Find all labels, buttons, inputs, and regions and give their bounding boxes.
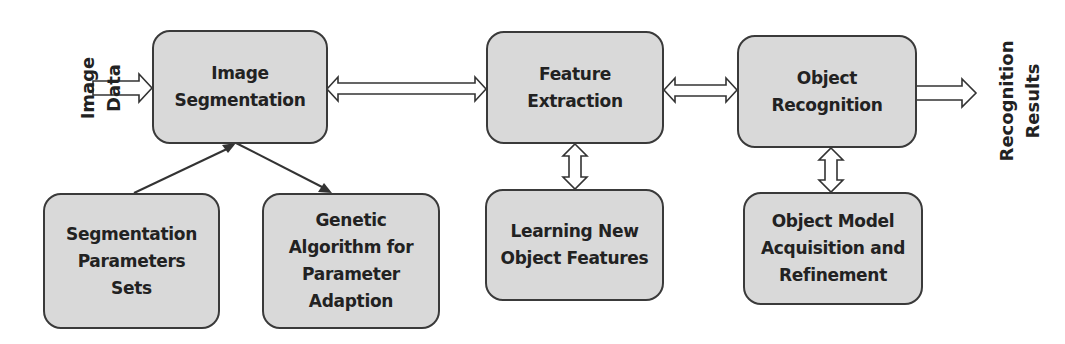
- node-label: Image Segmentation: [174, 60, 305, 114]
- node-label: Genetic Algorithm for Parameter Adaption: [289, 207, 413, 315]
- node-feature-extraction: Feature Extraction: [486, 31, 664, 144]
- node-label: Object Recognition: [772, 65, 883, 119]
- node-learning-new-object-features: Learning New Object Features: [485, 189, 664, 301]
- double-arrow-obj-model: [819, 148, 843, 192]
- node-image-segmentation: Image Segmentation: [152, 30, 328, 144]
- arrowhead-params-seg: [222, 143, 236, 153]
- node-label: Object Model Acquisition and Refinement: [761, 208, 905, 289]
- output-label-recognition-results: Recognition Results: [994, 36, 1046, 166]
- double-arrow-seg-feat: [327, 77, 486, 101]
- output-arrow: [916, 79, 976, 107]
- line-arrow-params-seg: [134, 148, 229, 193]
- node-object-model-acquisition: Object Model Acquisition and Refinement: [743, 192, 923, 305]
- node-genetic-algorithm: Genetic Algorithm for Parameter Adaption: [262, 193, 440, 329]
- input-label-image-data: Image Data: [75, 33, 101, 143]
- node-label: Feature Extraction: [527, 61, 622, 115]
- node-object-recognition: Object Recognition: [737, 35, 917, 148]
- node-label: Segmentation Parameters Sets: [66, 221, 197, 302]
- double-arrow-feat-obj: [664, 78, 737, 102]
- double-arrow-feat-learn: [563, 144, 587, 189]
- line-arrow-seg-genetic: [236, 143, 326, 189]
- arrowhead-seg-genetic: [318, 183, 332, 193]
- node-label: Learning New Object Features: [501, 218, 649, 272]
- node-segmentation-parameters-sets: Segmentation Parameters Sets: [43, 193, 220, 329]
